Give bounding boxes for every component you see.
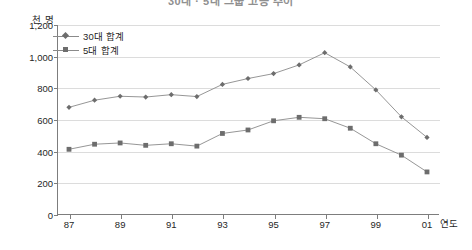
data-point-square bbox=[220, 131, 225, 136]
yaxis-ticklabel: 800 bbox=[3, 83, 53, 94]
series-line bbox=[69, 117, 427, 172]
legend-item-1[interactable]: 5대 합계 bbox=[53, 43, 136, 57]
yaxis-ticklabels: 02004006008001,0001,200 bbox=[0, 25, 53, 215]
data-point-diamond bbox=[220, 82, 225, 87]
data-point-square bbox=[143, 143, 148, 148]
yaxis-ticklabel: 1,000 bbox=[3, 51, 53, 62]
data-point-diamond bbox=[143, 94, 148, 99]
diamond-icon bbox=[53, 31, 79, 41]
chart-title-strip: 30대 · 5대 그룹 고용 추이 bbox=[0, 0, 472, 12]
data-point-square bbox=[194, 144, 199, 149]
data-point-diamond bbox=[194, 94, 199, 99]
data-point-square bbox=[92, 142, 97, 147]
xaxis-ticklabel: 99 bbox=[371, 219, 382, 230]
data-point-square bbox=[399, 153, 404, 158]
legend-label-1: 5대 합계 bbox=[83, 43, 119, 57]
data-point-diamond bbox=[169, 92, 174, 97]
data-point-diamond bbox=[118, 94, 123, 99]
xaxis-ticklabel: 91 bbox=[166, 219, 177, 230]
data-point-square bbox=[118, 141, 123, 146]
xaxis-title: 연도 bbox=[440, 216, 459, 230]
data-point-diamond bbox=[322, 50, 327, 55]
yaxis-ticklabel: 1,200 bbox=[3, 20, 53, 31]
chart-figure: 30대 · 5대 그룹 고용 추이 천 명 02004006008001,000… bbox=[0, 0, 472, 250]
data-point-square bbox=[322, 116, 327, 121]
data-point-diamond bbox=[245, 76, 250, 81]
data-point-diamond bbox=[66, 105, 71, 110]
series-1 bbox=[66, 50, 429, 140]
xaxis-ticklabel: 01 bbox=[422, 219, 433, 230]
data-point-square bbox=[169, 141, 174, 146]
xaxis-ticklabel: 93 bbox=[217, 219, 228, 230]
series-2 bbox=[67, 115, 430, 174]
data-point-square bbox=[348, 126, 353, 131]
series-line bbox=[69, 53, 427, 138]
xaxis-ticklabel: 87 bbox=[64, 219, 75, 230]
yaxis-ticklabel: 600 bbox=[3, 115, 53, 126]
data-point-square bbox=[373, 141, 378, 146]
data-point-square bbox=[297, 115, 302, 120]
xaxis-ticklabel: 97 bbox=[319, 219, 330, 230]
yaxis-ticklabel: 400 bbox=[3, 146, 53, 157]
data-point-square bbox=[246, 128, 251, 133]
legend-label-0: 30대 합계 bbox=[83, 29, 124, 43]
data-point-square bbox=[425, 170, 430, 175]
xaxis-ticklabel: 95 bbox=[268, 219, 279, 230]
xaxis-ticklabel: 89 bbox=[115, 219, 126, 230]
yaxis-tickmark bbox=[54, 215, 58, 216]
xaxis-ticklabels: 8789919395979901 bbox=[57, 219, 439, 235]
legend-item-0[interactable]: 30대 합계 bbox=[53, 29, 136, 43]
square-icon bbox=[53, 45, 79, 55]
yaxis-ticklabel: 200 bbox=[3, 178, 53, 189]
data-point-diamond bbox=[271, 71, 276, 76]
chart-legend: 30대 합계 5대 합계 bbox=[52, 27, 138, 59]
data-point-diamond bbox=[297, 62, 302, 67]
yaxis-ticklabel: 0 bbox=[3, 210, 53, 221]
data-point-diamond bbox=[92, 98, 97, 103]
data-point-square bbox=[67, 147, 72, 152]
data-point-square bbox=[271, 118, 276, 123]
chart-title: 30대 · 5대 그룹 고용 추이 bbox=[168, 0, 294, 8]
